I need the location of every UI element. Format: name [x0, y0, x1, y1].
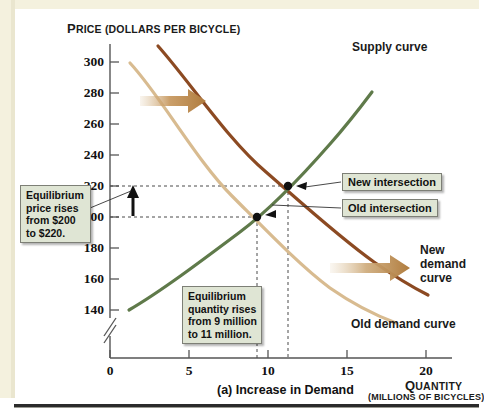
figure-caption: (a) Increase in Demand	[217, 383, 354, 397]
price-rise-arrow	[127, 185, 139, 216]
x-axis-ticks	[110, 350, 426, 358]
new-demand-curve-label-line2: demand	[420, 257, 466, 271]
new-intersection-tag: New intersection	[342, 173, 442, 191]
x-axis-title-rest: UANTITY	[415, 380, 462, 392]
x-axis-subtitle: (MILLIONS OF BICYCLES)	[368, 392, 484, 402]
new-intersection-arrowhead	[296, 182, 307, 190]
price-rise-callout: Equilibrium price rises from $200 to $22…	[20, 185, 91, 243]
x-tick-10: 10	[253, 363, 283, 379]
new-intersection-dot	[284, 182, 292, 190]
new-demand-curve-label: New demand curve	[420, 243, 466, 285]
y-axis-title-lead: P	[67, 21, 76, 36]
y-axis-title-rest: RICE (DOLLARS PER BICYCLE)	[76, 23, 240, 35]
x-axis-title: QUANTITY	[405, 378, 462, 393]
old-demand-curve-label: Old demand curve	[351, 317, 456, 331]
y-tick-260: 260	[62, 116, 104, 132]
y-tick-160: 160	[62, 271, 104, 287]
y-tick-140: 140	[62, 302, 104, 318]
x-tick-20: 20	[411, 363, 441, 379]
x-tick-0: 0	[95, 363, 125, 379]
supply-curve-label: Supply curve	[352, 40, 427, 54]
x-axis-title-lead: Q	[405, 378, 415, 393]
new-demand-curve-label-line3: curve	[420, 271, 466, 285]
y-tick-280: 280	[62, 85, 104, 101]
y-tick-300: 300	[62, 54, 104, 70]
new-demand-curve-label-line1: New	[420, 243, 466, 257]
supply-curve	[129, 92, 372, 310]
old-intersection-tag: Old intersection	[342, 199, 438, 217]
old-intersection-dot	[253, 213, 261, 221]
y-axis-title: PRICE (DOLLARS PER BICYCLE)	[67, 21, 240, 36]
x-tick-5: 5	[174, 363, 204, 379]
quantity-rise-callout: Equilibrium quantity rises from 9 millio…	[182, 286, 262, 344]
y-tick-240: 240	[62, 147, 104, 163]
x-tick-15: 15	[332, 363, 362, 379]
